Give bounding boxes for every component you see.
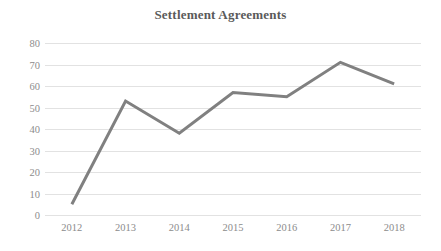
series-line xyxy=(45,43,421,215)
x-tick-label: 2018 xyxy=(367,222,421,233)
plot-area xyxy=(45,43,421,215)
y-tick-label: 20 xyxy=(0,167,40,178)
y-tick-label: 60 xyxy=(0,81,40,92)
y-axis: 80706050403020100 xyxy=(0,43,40,215)
y-tick-label: 80 xyxy=(0,38,40,49)
x-tick-label: 2015 xyxy=(206,222,260,233)
y-tick-label: 10 xyxy=(0,188,40,199)
x-tick-label: 2017 xyxy=(313,222,367,233)
x-tick-label: 2016 xyxy=(260,222,314,233)
x-tick-label: 2014 xyxy=(152,222,206,233)
y-tick-label: 50 xyxy=(0,102,40,113)
chart-title: Settlement Agreements xyxy=(0,7,441,23)
y-tick-label: 70 xyxy=(0,59,40,70)
y-tick-label: 30 xyxy=(0,145,40,156)
x-tick-label: 2013 xyxy=(99,222,153,233)
gridline xyxy=(45,215,421,216)
line-chart: Settlement Agreements 80706050403020100 … xyxy=(0,0,441,251)
x-axis: 2012201320142015201620172018 xyxy=(45,222,421,242)
x-tick-label: 2012 xyxy=(45,222,99,233)
y-tick-label: 0 xyxy=(0,210,40,221)
y-tick-label: 40 xyxy=(0,124,40,135)
